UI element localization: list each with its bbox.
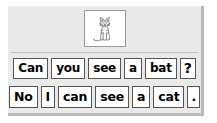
word-card[interactable]: bat [145, 58, 177, 79]
punctuation-card[interactable]: ? [180, 58, 196, 79]
word-card[interactable]: I [41, 86, 55, 108]
sentence-row-1: Can you see a bat ? [8, 57, 201, 79]
word-card[interactable]: No [9, 86, 38, 108]
word-card[interactable]: cat [153, 86, 184, 108]
cat-line-drawing-icon [90, 13, 120, 45]
sentence-row-2: No I can see a cat . [8, 86, 201, 108]
word-card[interactable]: see [88, 58, 121, 79]
section-divider [11, 52, 198, 53]
word-card[interactable]: a [132, 86, 150, 108]
picture-frame [84, 10, 126, 47]
word-card[interactable]: you [51, 58, 85, 79]
picture-section [8, 6, 201, 52]
word-card[interactable]: a [124, 58, 142, 79]
word-card[interactable]: see [95, 86, 129, 108]
word-card[interactable]: Can [13, 58, 48, 79]
word-card[interactable]: can [58, 86, 92, 108]
worksheet-panel: Can you see a bat ? No I can see a cat . [8, 6, 204, 116]
punctuation-card[interactable]: . [187, 86, 200, 108]
